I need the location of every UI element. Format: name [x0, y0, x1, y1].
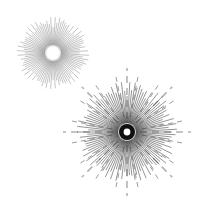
small-starburst: [17, 17, 89, 89]
starburst-artwork: Starburst sunburst illustration: [0, 0, 202, 207]
core-white-hole: [47, 47, 59, 59]
illustration-canvas: Starburst sunburst illustration: [0, 0, 202, 207]
core-white-hole: [124, 129, 131, 136]
